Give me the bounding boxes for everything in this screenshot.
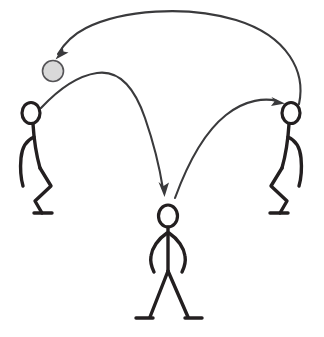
figure-left: [21, 103, 52, 214]
arrow-right-to-ball-path: [58, 11, 300, 104]
figure-center-left-leg: [150, 271, 168, 317]
figure-left-arm: [21, 137, 34, 186]
figure-left-leg: [35, 168, 51, 213]
figure-center: [136, 205, 202, 318]
figure-center-head: [159, 205, 178, 227]
arrow-center-to-right: [175, 97, 285, 198]
arrow-center-to-right-head: [271, 97, 285, 106]
arrow-left-to-center-path: [41, 73, 163, 189]
gray-ball: [43, 61, 64, 82]
arrow-left-to-center-head: [159, 182, 170, 197]
arrow-right-to-ball: [56, 11, 301, 104]
figure-right-head: [282, 103, 300, 124]
arrow-right-to-ball-head: [56, 46, 69, 60]
figure-left-torso: [33, 124, 40, 168]
figure-center-left-arm: [151, 233, 167, 272]
figure-right-leg: [271, 168, 287, 213]
arrow-center-to-right-path: [175, 100, 277, 198]
figure-right-arm: [288, 137, 301, 186]
stick-figure-diagram: Ball passing sequence between three stic…: [0, 0, 324, 337]
arrow-left-to-center: [41, 73, 169, 197]
figure-right-torso: [282, 124, 289, 168]
figure-center-right-leg: [168, 271, 188, 317]
diagram-canvas: Ball passing sequence between three stic…: [0, 0, 324, 337]
figure-center-right-arm: [169, 233, 185, 272]
figure-right: [270, 103, 301, 214]
figure-left-head: [22, 103, 40, 124]
